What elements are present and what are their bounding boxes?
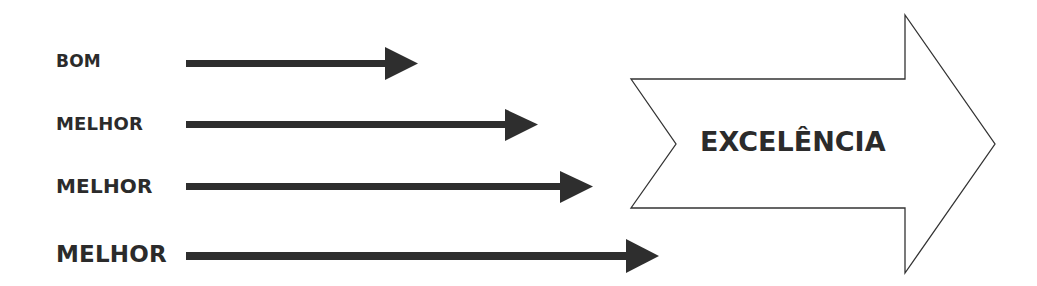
- row-label-bom: BOM: [56, 51, 101, 71]
- row-label-melhor-3: MELHOR: [56, 241, 167, 267]
- arrow-icon: [186, 109, 538, 141]
- row-label-melhor-1: MELHOR: [56, 113, 143, 134]
- arrow-icon: [186, 171, 593, 203]
- excellence-label: EXCELÊNCIA: [700, 126, 886, 157]
- arrow-icon: [186, 239, 659, 273]
- row-label-melhor-2: MELHOR: [56, 174, 153, 198]
- arrow-icon: [186, 47, 418, 80]
